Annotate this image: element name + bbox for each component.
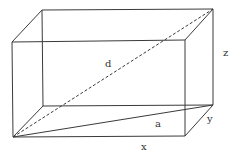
- base-diagonal-a: [13, 105, 213, 137]
- label-y: y: [206, 113, 213, 124]
- label-a: a: [155, 118, 161, 129]
- box-diagram-canvas: d a x y z: [0, 0, 241, 158]
- back-face: [42, 9, 213, 106]
- label-d: d: [105, 58, 112, 69]
- edge-top-right-depth: [185, 9, 213, 40]
- edge-top-left-depth: [12, 10, 42, 42]
- label-x: x: [141, 141, 147, 152]
- label-z: z: [223, 47, 228, 58]
- box-diagram: d a x y z: [0, 0, 241, 158]
- edge-bottom-left-depth: [13, 106, 43, 137]
